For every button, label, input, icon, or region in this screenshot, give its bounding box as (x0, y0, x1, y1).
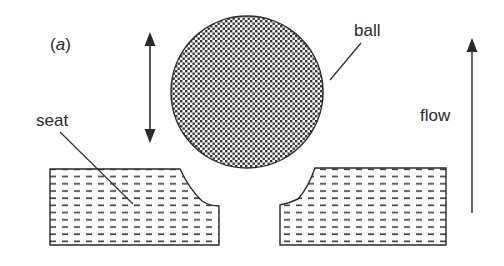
flow-arrow (467, 38, 478, 213)
ball-shape (171, 16, 323, 168)
flow-label: flow (420, 107, 450, 124)
panel-label-letter: a (56, 35, 65, 54)
motion-double-arrow (145, 32, 156, 143)
seat-left-block (50, 169, 219, 245)
panel-label-close: ) (65, 35, 71, 54)
seat-label: seat (36, 112, 68, 129)
ball-valve-diagram (0, 0, 504, 266)
seat-right-block (280, 168, 446, 245)
ball-label: ball (354, 22, 380, 39)
ball-leader-line (330, 43, 361, 80)
panel-label: (a) (50, 36, 71, 53)
